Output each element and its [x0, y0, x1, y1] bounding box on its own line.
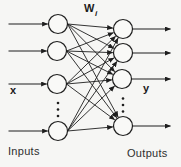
right-ellipsis-dot-1: [122, 97, 125, 100]
right-ellipsis-dot-3: [122, 110, 125, 113]
left-ellipsis-dot-3: [57, 115, 60, 118]
weight-connection-2-2: [67, 51, 113, 53]
inputs-caption: Inputs: [8, 146, 40, 157]
outputs-caption: Outputs: [127, 148, 168, 159]
weight-connection-4-3: [68, 86, 115, 131]
weights-label: Wi: [84, 3, 97, 17]
input-node-3: [48, 75, 67, 94]
input-vector-label: x: [10, 85, 16, 96]
network-diagram-canvas: [0, 0, 181, 167]
right-ellipsis-dot-2: [122, 104, 125, 107]
left-ellipsis-dot-1: [57, 102, 60, 105]
weight-connection-4-4: [68, 127, 113, 131]
output-node-2: [114, 44, 133, 63]
weight-connection-4-2: [68, 61, 118, 131]
output-node-1: [114, 20, 133, 39]
output-node-4: [114, 117, 133, 136]
neural-network-figure: Wi x y Inputs Outputs: [0, 0, 181, 167]
weights-label-subscript: i: [95, 9, 97, 18]
input-node-2: [48, 42, 67, 61]
weights-label-base: W: [84, 2, 94, 14]
output-node-3: [113, 70, 132, 89]
input-node-1: [49, 15, 68, 34]
output-vector-label: y: [143, 83, 149, 94]
input-node-4: [49, 122, 68, 141]
left-ellipsis-dot-2: [57, 108, 60, 111]
